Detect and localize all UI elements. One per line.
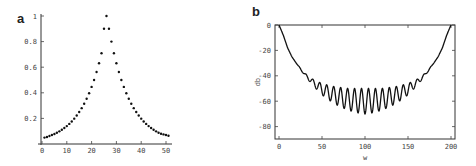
data-point [58, 130, 60, 132]
data-point [71, 120, 73, 122]
data-point [56, 132, 58, 134]
data-point [150, 127, 152, 129]
x-tick-label: 40 [137, 147, 145, 155]
data-point [140, 117, 142, 119]
x-tick-label: 50 [162, 147, 170, 155]
data-point [61, 129, 63, 131]
data-point [147, 125, 149, 127]
data-point [138, 114, 140, 116]
data-point [135, 111, 137, 113]
data-point [128, 97, 130, 99]
y-tick-label: -80 [258, 123, 271, 131]
data-point [120, 79, 122, 81]
data-point [110, 40, 112, 42]
x-tick-label: 20 [87, 147, 95, 155]
y-tick-label: 0.4 [24, 89, 37, 97]
data-point [51, 134, 53, 136]
y-tick-label: -60 [258, 98, 271, 106]
data-point [88, 92, 90, 94]
y-tick-label: -20 [258, 47, 271, 55]
data-point [93, 79, 95, 81]
data-point [103, 28, 105, 30]
data-point [142, 120, 144, 122]
data-point [160, 133, 162, 135]
y-tick-label: 0.6 [24, 64, 37, 72]
x-axis-label: w [363, 154, 368, 162]
data-point [130, 102, 132, 104]
data-point [78, 111, 80, 113]
data-point [63, 127, 65, 129]
x-tick-label: 200 [445, 143, 458, 151]
line-plot-b: 0-20-40-60-80050100150200wdb [238, 0, 476, 166]
plot-frame [275, 25, 455, 139]
data-point [118, 71, 120, 73]
x-tick-label: 150 [402, 143, 415, 151]
x-tick-label: 30 [112, 147, 120, 155]
data-point [95, 71, 97, 73]
data-point [133, 107, 135, 109]
data-point [43, 136, 45, 138]
y-tick-label: 0 [267, 22, 271, 30]
data-point [46, 136, 48, 138]
data-point [157, 132, 159, 134]
y-tick-label: 0.8 [24, 38, 37, 46]
data-point [167, 134, 169, 136]
data-point [85, 97, 87, 99]
data-point [115, 62, 117, 64]
data-point [105, 15, 107, 17]
data-point [108, 28, 110, 30]
data-point [123, 86, 125, 88]
data-point [98, 62, 100, 64]
data-point [100, 52, 102, 54]
data-point [145, 123, 147, 125]
data-point [113, 52, 115, 54]
data-point [125, 92, 127, 94]
y-tick-label: 1 [33, 13, 37, 21]
data-point [90, 86, 92, 88]
data-point [152, 129, 154, 131]
data-point [53, 133, 55, 135]
y-tick-label: 0.2 [24, 115, 37, 123]
x-tick-label: 100 [359, 143, 372, 151]
scatter-plot-a: 0.20.40.60.8101020304050 [0, 0, 238, 166]
data-point [83, 102, 85, 104]
data-point [165, 134, 167, 136]
panel-b: b 0-20-40-60-80050100150200wdb [238, 0, 476, 166]
data-point [66, 125, 68, 127]
response-curve [279, 25, 451, 114]
data-point [80, 107, 82, 109]
x-tick-label: 0 [277, 143, 281, 151]
data-point [68, 123, 70, 125]
data-point [48, 135, 50, 137]
data-point [162, 133, 164, 135]
panel-a: a 0.20.40.60.8101020304050 [0, 0, 238, 166]
x-tick-label: 0 [40, 147, 44, 155]
data-point [155, 130, 157, 132]
y-axis-label: db [254, 78, 262, 86]
data-point [76, 114, 78, 116]
x-tick-label: 50 [318, 143, 326, 151]
x-tick-label: 10 [63, 147, 71, 155]
data-point [73, 117, 75, 119]
